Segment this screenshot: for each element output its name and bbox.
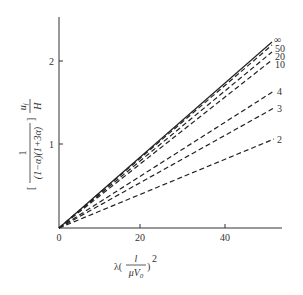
curve-4 — [59, 91, 274, 228]
svg-text:uf: uf — [17, 102, 29, 110]
svg-text:): ) — [147, 261, 150, 273]
curve-label-4: 4 — [277, 86, 282, 97]
chart: 0 20 40 1 2 ∞ 50 20 10 4 3 2 λ( l μV0 ) … — [0, 0, 303, 295]
y-tick-label-2: 2 — [49, 56, 54, 67]
curve-label-10: 10 — [275, 59, 285, 70]
curve-20 — [59, 52, 272, 228]
x-tick-label-0: 0 — [57, 232, 62, 243]
curve-label-2: 2 — [277, 134, 282, 145]
curve-3 — [59, 108, 274, 228]
svg-text:2: 2 — [152, 253, 157, 264]
curve-10 — [59, 60, 272, 228]
x-tick-label-20: 20 — [135, 232, 145, 243]
svg-text:1: 1 — [17, 151, 28, 156]
curve-label-3: 3 — [277, 103, 282, 114]
svg-text:H: H — [32, 102, 43, 111]
svg-text:λ(: λ( — [114, 261, 123, 273]
svg-text:[: [ — [25, 187, 36, 190]
curves — [59, 42, 274, 228]
y-tick-label-1: 1 — [49, 139, 54, 150]
x-axis-label: λ( l μV0 ) 2 — [114, 253, 157, 280]
svg-text:]: ] — [25, 118, 36, 121]
svg-text:(1−α)(1+3α): (1−α)(1+3α) — [32, 126, 44, 179]
svg-text:l: l — [135, 253, 138, 264]
curve-50 — [59, 45, 272, 228]
x-tick-label-40: 40 — [220, 232, 230, 243]
y-axis-label: [ 1 (1−α)(1+3α) ] uf H — [17, 99, 44, 190]
svg-text:μV0: μV0 — [128, 267, 144, 280]
curve-2 — [59, 139, 274, 228]
